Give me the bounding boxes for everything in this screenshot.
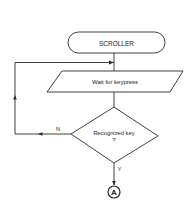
arrow-right-icon: [109, 61, 114, 65]
edge-label-no: N: [56, 126, 60, 132]
edge-decision-to-connector: [112, 163, 116, 186]
input-parallelogram: Wait for keypress: [47, 71, 183, 92]
arrow-up-icon: [13, 95, 17, 100]
start-label: SCROLLER: [99, 40, 134, 47]
arrow-down-icon: [112, 181, 116, 186]
flowchart: SCROLLER Wait for keypress Recognized ke…: [0, 0, 192, 218]
arrow-left-icon: [38, 132, 43, 136]
input-label: Wait for keypress: [92, 79, 138, 85]
connector-label: A: [111, 188, 117, 197]
connector-circle: A: [108, 186, 120, 198]
decision-diamond: Recognized key ?: [71, 107, 158, 163]
decision-label-line1: Recognized key: [93, 130, 134, 136]
edge-label-yes: Y: [118, 166, 122, 172]
start-terminator: SCROLLER: [68, 32, 165, 53]
